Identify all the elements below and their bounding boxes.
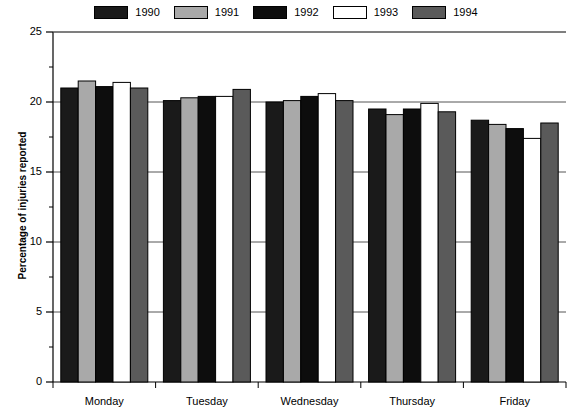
bar-tuesday-1992	[198, 96, 215, 382]
y-tick-label-0: 0	[16, 376, 42, 387]
bar-group-thursday	[369, 103, 456, 382]
bar-tuesday-1993	[216, 96, 233, 382]
y-tick-marks	[46, 32, 53, 382]
bar-wednesday-1991	[283, 101, 300, 382]
x-tick-marks	[53, 382, 566, 388]
bar-group-wednesday	[266, 94, 353, 382]
x-tick-label-wednesday: Wednesday	[255, 396, 365, 407]
bar-group-monday	[61, 81, 148, 382]
bar-monday-1994	[130, 88, 147, 382]
bar-tuesday-1994	[233, 89, 250, 382]
bar-monday-1990	[61, 88, 78, 382]
bar-thursday-1993	[421, 103, 438, 382]
x-tick-label-tuesday: Tuesday	[152, 396, 262, 407]
bar-chart-svg	[0, 0, 572, 419]
bar-friday-1994	[541, 123, 558, 382]
bar-thursday-1991	[386, 115, 403, 382]
bar-thursday-1994	[438, 112, 455, 382]
bar-thursday-1990	[369, 109, 386, 382]
bar-tuesday-1991	[181, 98, 198, 382]
bar-wednesday-1992	[301, 96, 318, 382]
bar-monday-1991	[78, 81, 95, 382]
bar-wednesday-1993	[318, 94, 335, 382]
bar-friday-1991	[489, 124, 506, 382]
y-axis-title: Percentage of injuries reported	[17, 106, 28, 306]
bars	[61, 81, 558, 382]
bar-friday-1990	[471, 120, 488, 382]
y-tick-label-25: 25	[16, 26, 42, 37]
x-tick-label-friday: Friday	[460, 396, 570, 407]
x-tick-label-monday: Monday	[49, 396, 159, 407]
y-tick-label-10: 10	[16, 236, 42, 247]
bar-friday-1993	[523, 138, 540, 382]
y-tick-label-5: 5	[16, 306, 42, 317]
bar-wednesday-1990	[266, 102, 283, 382]
bar-friday-1992	[506, 129, 523, 382]
y-tick-label-15: 15	[16, 166, 42, 177]
chart-plot-container: Percentage of injuries reported 05101520…	[0, 0, 572, 419]
bar-thursday-1992	[403, 109, 420, 382]
bar-group-tuesday	[163, 89, 250, 382]
x-tick-label-thursday: Thursday	[357, 396, 467, 407]
bar-monday-1992	[96, 87, 113, 382]
bar-group-friday	[471, 120, 558, 382]
bar-wednesday-1994	[336, 101, 353, 382]
bar-tuesday-1990	[163, 101, 180, 382]
y-tick-label-20: 20	[16, 96, 42, 107]
bar-monday-1993	[113, 82, 130, 382]
